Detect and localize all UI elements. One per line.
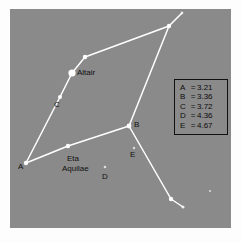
legend-equals-sign: = <box>189 92 197 101</box>
star-marker-b <box>127 124 132 129</box>
star-chart-figure: Altair C A Eta Aquilae D B E A=3.21B=3.3… <box>0 0 241 243</box>
star-marker-altair <box>68 69 75 76</box>
legend-row-d: D=4.36 <box>180 111 223 120</box>
constellation-line <box>129 126 183 207</box>
legend-row-c: C=3.72 <box>180 102 223 111</box>
legend-key: A <box>180 83 189 92</box>
star-marker-d <box>104 166 107 169</box>
star-marker-eta-aquilae <box>66 144 70 148</box>
legend-row-b: B=3.36 <box>180 92 223 101</box>
star-label-a: A <box>18 162 23 171</box>
star-label-d: D <box>102 172 108 181</box>
sky-plot-area: Altair C A Eta Aquilae D B E A=3.21B=3.3… <box>10 9 231 228</box>
star-marker-v4 <box>169 197 173 201</box>
star-label-eta-aquilae-line2: Aquilae <box>62 164 89 173</box>
star-marker-v2 <box>167 24 171 28</box>
constellation-line <box>129 26 169 126</box>
legend-value: 4.36 <box>197 111 213 120</box>
legend-value: 3.21 <box>197 83 213 92</box>
star-marker-v5 <box>181 205 184 208</box>
star-marker-e <box>133 147 135 149</box>
legend-equals-sign: = <box>189 83 197 92</box>
star-label-eta-aquilae-line1: Eta <box>67 154 79 163</box>
legend-equals-sign: = <box>189 102 197 111</box>
legend-value: 3.72 <box>197 102 213 111</box>
star-label-e: E <box>130 150 135 159</box>
constellation-line <box>26 26 169 163</box>
legend-equals-sign: = <box>189 121 197 130</box>
star-marker-v1 <box>83 55 87 59</box>
legend-row-e: E=4.67 <box>180 121 223 130</box>
star-marker-c <box>58 95 62 99</box>
star-label-b: B <box>134 120 139 129</box>
legend-key: D <box>180 111 189 120</box>
star-label-c: C <box>54 100 60 109</box>
legend-value: 4.67 <box>197 121 213 130</box>
legend-equals-sign: = <box>189 111 197 120</box>
star-label-altair: Altair <box>77 68 95 77</box>
legend-row-a: A=3.21 <box>180 83 223 92</box>
star-marker-a <box>24 161 28 165</box>
legend-key: B <box>180 92 189 101</box>
constellation-line <box>169 13 182 26</box>
star-marker-f1 <box>209 190 211 192</box>
legend-value: 3.36 <box>197 92 213 101</box>
legend-key: E <box>180 121 189 130</box>
star-marker-v3 <box>181 12 184 15</box>
magnitude-legend-box: A=3.21B=3.36C=3.72D=4.36E=4.67 <box>174 79 228 135</box>
legend-key: C <box>180 102 189 111</box>
